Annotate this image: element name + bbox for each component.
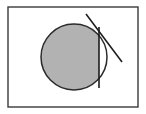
geometry-diagram — [0, 0, 146, 114]
figure-canvas — [0, 0, 146, 114]
